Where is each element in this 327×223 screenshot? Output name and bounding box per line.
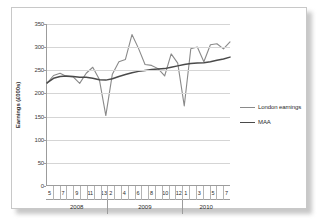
x-axis-tick-separator bbox=[155, 186, 156, 200]
x-axis-month-label bbox=[94, 186, 101, 200]
x-axis-tick-separator bbox=[210, 186, 211, 200]
x-axis-tick-separator bbox=[80, 186, 81, 200]
x-axis-tick-separator bbox=[87, 186, 88, 200]
screenshot-root: Earnings (£000s) 350300250200150100500 5… bbox=[0, 0, 327, 223]
x-axis-tick-separator bbox=[175, 186, 176, 200]
x-axis-tick-separator bbox=[162, 186, 163, 200]
x-axis-tick-separator bbox=[216, 186, 217, 200]
x-axis-month-label: 6 bbox=[135, 186, 142, 200]
x-axis-month-label bbox=[216, 186, 223, 200]
x-axis-tick-separator bbox=[196, 186, 197, 200]
x-axis-month-label bbox=[169, 186, 176, 200]
y-axis-tick-label: 100 bbox=[35, 137, 44, 143]
x-axis-month-label: 7 bbox=[223, 186, 230, 200]
x-axis-month-label: 5 bbox=[210, 186, 217, 200]
x-axis-month-label bbox=[128, 186, 135, 200]
x-axis-months: 5791113246810121357 bbox=[46, 186, 230, 200]
x-axis-tick-separator bbox=[203, 186, 204, 200]
legend-label-maa: MAA bbox=[258, 119, 271, 125]
x-axis-month-label: 13 bbox=[101, 186, 108, 200]
y-axis-title: Earnings (£000s) bbox=[15, 82, 21, 128]
x-axis-tick-separator bbox=[101, 186, 102, 200]
x-axis-month-label: 3 bbox=[196, 186, 203, 200]
legend-line-icon-maa bbox=[240, 122, 255, 123]
x-axis-month-label: 8 bbox=[148, 186, 155, 200]
x-axis-tick-separator bbox=[60, 186, 61, 200]
x-axis-tick-separator bbox=[73, 186, 74, 200]
series-lines bbox=[47, 24, 230, 185]
x-axis-month-label bbox=[203, 186, 210, 200]
x-axis-tick-separator bbox=[107, 186, 108, 200]
x-axis-tick-separator bbox=[66, 186, 67, 200]
x-axis-month-label bbox=[53, 186, 60, 200]
x-axis-tick-separator bbox=[189, 186, 190, 200]
chart-legend: London earnings MAA bbox=[240, 104, 316, 134]
x-axis-month-label: 5 bbox=[46, 186, 53, 200]
x-axis-month-label: 7 bbox=[60, 186, 67, 200]
x-axis-month-label: 12 bbox=[175, 186, 182, 200]
x-axis-tick-separator bbox=[135, 186, 136, 200]
gridline bbox=[47, 24, 230, 25]
x-axis-tick-separator bbox=[182, 186, 183, 200]
x-axis-tick-separator bbox=[169, 186, 170, 200]
y-axis-tick-label: 150 bbox=[35, 114, 44, 120]
y-axis-tick-label: 300 bbox=[35, 44, 44, 50]
x-axis-month-label bbox=[189, 186, 196, 200]
y-axis-tick-label: 250 bbox=[35, 67, 44, 73]
x-axis-month-label bbox=[114, 186, 121, 200]
gridline bbox=[47, 117, 230, 118]
x-axis-year-label: 2010 bbox=[182, 200, 230, 214]
gridline bbox=[47, 70, 230, 71]
x-axis-month-label: 11 bbox=[87, 186, 94, 200]
x-axis-month-label bbox=[80, 186, 87, 200]
x-axis-month-label bbox=[141, 186, 148, 200]
plot-area bbox=[46, 24, 230, 186]
x-axis-month-label: 2 bbox=[107, 186, 114, 200]
x-axis-month-label bbox=[155, 186, 162, 200]
gridline bbox=[47, 93, 230, 94]
x-axis: 5791113246810121357 200820092010 bbox=[46, 186, 230, 214]
gridline bbox=[47, 140, 230, 141]
x-axis-year-label: 2009 bbox=[107, 200, 182, 214]
x-axis-tick-separator bbox=[148, 186, 149, 200]
gridline bbox=[47, 47, 230, 48]
x-axis-month-label: 9 bbox=[73, 186, 80, 200]
gridline bbox=[47, 163, 230, 164]
x-axis-tick-separator bbox=[128, 186, 129, 200]
y-axis-tick-label: 200 bbox=[35, 90, 44, 96]
x-axis-tick-separator bbox=[94, 186, 95, 200]
x-axis-tick-separator bbox=[114, 186, 115, 200]
x-axis-years: 200820092010 bbox=[46, 200, 230, 214]
x-axis-year-separator bbox=[107, 200, 108, 214]
x-axis-month-label: 10 bbox=[162, 186, 169, 200]
x-axis-tick-separator bbox=[223, 186, 224, 200]
y-axis-tick-label: 350 bbox=[35, 21, 44, 27]
x-axis-tick-separator bbox=[121, 186, 122, 200]
legend-item-maa: MAA bbox=[240, 119, 316, 125]
y-axis-labels: 350300250200150100500 bbox=[26, 24, 44, 186]
legend-line-icon-london-earnings bbox=[240, 107, 255, 108]
x-axis-month-label bbox=[66, 186, 73, 200]
legend-item-london-earnings: London earnings bbox=[240, 104, 316, 110]
legend-label-london-earnings: London earnings bbox=[258, 104, 301, 110]
x-axis-month-label: 4 bbox=[121, 186, 128, 200]
x-axis-tick-separator bbox=[53, 186, 54, 200]
x-axis-tick-separator bbox=[141, 186, 142, 200]
x-axis-month-label: 1 bbox=[182, 186, 189, 200]
x-axis-year-label: 2008 bbox=[46, 200, 107, 214]
chart-card: Earnings (£000s) 350300250200150100500 5… bbox=[11, 7, 307, 209]
x-axis-year-separator bbox=[182, 200, 183, 214]
